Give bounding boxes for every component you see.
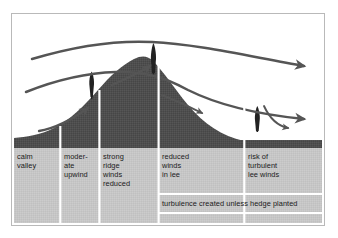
zone-cell-reduced-lee[interactable] <box>159 148 244 193</box>
zone-cell-strong-ridge[interactable] <box>100 148 158 223</box>
zone-cell-moderate-upwind[interactable] <box>61 148 99 223</box>
wind-flow-diagram <box>12 14 324 225</box>
turbulence-banner-label: turbulence created unless hedge planted <box>162 199 298 208</box>
zone-cell-turbulent-lee[interactable] <box>245 148 322 193</box>
figure-frame: calm valley moder- ate upwind strong rid… <box>11 13 325 226</box>
zone-cell-calm-valley[interactable] <box>14 148 60 223</box>
diagram-canvas: calm valley moder- ate upwind strong rid… <box>0 0 338 238</box>
